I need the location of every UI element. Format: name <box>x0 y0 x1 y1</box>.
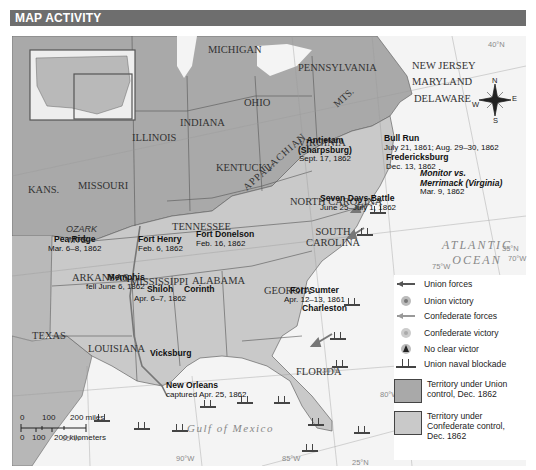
confederate-arrow-icon <box>394 313 418 319</box>
state-label-louisiana: LOUISIANA <box>88 343 145 354</box>
legend-item-confederate-territory: Territory under Confederate control, Dec… <box>394 411 523 441</box>
grid-label-85w: 85°W <box>282 454 300 463</box>
compass-s: S <box>493 116 498 125</box>
legend-item-union-territory: Territory under Union control, Dec. 1862 <box>394 379 523 403</box>
compass-w: W <box>472 100 479 109</box>
state-label-texas: TEXAS <box>32 330 66 341</box>
ship-icon <box>394 359 418 369</box>
city-corinth: Corinth <box>184 285 215 295</box>
map-legend: Union forces Union victory Confederate f… <box>394 275 528 460</box>
grid-label-35n: 35°N <box>502 244 519 253</box>
state-label-pennsylvania: PENNSYLVANIA <box>298 62 377 73</box>
legend-item-naval-blockade: Union naval blockade <box>394 359 506 369</box>
union-arrow-icon <box>394 281 418 287</box>
state-label-michigan: MICHIGAN <box>208 44 262 55</box>
legend-item-no-clear-victor: No clear victor <box>394 343 479 355</box>
confederate-victory-icon <box>394 327 418 339</box>
legend-item-union-victory: Union victory <box>394 295 474 307</box>
battle-pea-ridge: Pea RidgeMar. 6–8, 1862 <box>48 235 101 253</box>
legend-item-union-forces: Union forces <box>394 279 472 289</box>
no-victor-icon <box>394 343 418 355</box>
state-label-missouri: MISSOURI <box>78 180 128 191</box>
battle-fort-henry: Fort HenryFeb. 6, 1862 <box>138 235 183 253</box>
battle-antietam: Antietam(Sharpsburg)Sept. 17, 1862 <box>298 136 352 164</box>
battle-shiloh: ShilohApr. 6–7, 1862 <box>134 285 186 303</box>
city-new-orleans: New Orleanscaptured Apr. 25, 1862 <box>166 381 247 399</box>
battle-fort-donelson: Fort DonelsonFeb. 16, 1862 <box>196 230 254 248</box>
label-gulf-of-mexico: Gulf of Mexico <box>187 422 274 434</box>
city-vicksburg: Vicksburg <box>150 349 191 359</box>
union-territory-swatch <box>394 379 422 403</box>
grid-label-30n: 30°N <box>322 366 339 375</box>
grid-label-25n: 25°N <box>352 458 369 467</box>
legend-item-confederate-forces: Confederate forces <box>394 311 497 321</box>
battle-seven-days: Seven Days BattleJune 25–July 1, 1862 <box>320 194 396 212</box>
state-label-new-jersey: NEW JERSEY <box>412 60 476 71</box>
state-label-delaware: DELAWARE <box>414 93 471 104</box>
state-label-kansas: KANS. <box>28 184 59 195</box>
region-label-ozark: OZARK <box>66 224 97 234</box>
compass-n: N <box>492 76 497 85</box>
state-label-ohio: OHIO <box>244 97 270 108</box>
grid-label-40n: 40°N <box>488 40 505 49</box>
battle-bull-run: Bull RunJuly 21, 1861; Aug. 29–30, 1862 <box>384 134 499 152</box>
union-victory-icon <box>394 295 418 307</box>
header-bar: MAP ACTIVITY <box>10 10 526 26</box>
city-charleston: Charleston <box>302 304 347 314</box>
confederate-territory-swatch <box>394 411 422 435</box>
state-label-indiana: INDIANA <box>180 117 225 128</box>
grid-label-70w: 70°W <box>508 254 526 263</box>
battle-monitor-merrimack: Monitor vs.Merrimack (Virginia)Mar. 9, 1… <box>420 169 502 197</box>
battle-fort-sumter: Fort SumterApr. 12–13, 1861 <box>284 286 345 304</box>
grid-label-75w: 75°W <box>432 262 450 271</box>
grid-label-90w: 90°W <box>176 454 194 463</box>
compass-e: E <box>512 94 517 103</box>
page-title: MAP ACTIVITY <box>15 11 101 25</box>
state-label-maryland: MARYLAND <box>412 76 472 87</box>
legend-item-confederate-victory: Confederate victory <box>394 327 499 339</box>
state-label-illinois: ILLINOIS <box>132 132 176 143</box>
state-label-south-carolina: SOUTH CAROLINA <box>298 226 368 248</box>
